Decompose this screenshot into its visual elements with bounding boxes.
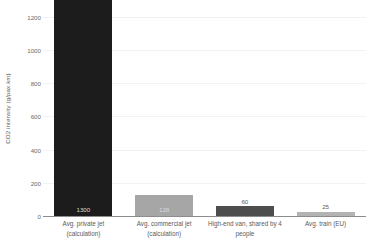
- bar-value-label: 60: [205, 198, 286, 205]
- y-tick-label: 200: [15, 179, 41, 186]
- y-tick-label: 600: [15, 113, 41, 120]
- x-axis-line: [43, 216, 366, 217]
- category-label: Avg. private jet(calculation): [43, 219, 124, 238]
- category-label: Avg. train (EU): [285, 219, 366, 229]
- x-axis-category-labels: Avg. private jet(calculation)Avg. commer…: [43, 219, 366, 249]
- y-axis-tick-labels: 020040060080010001200: [13, 0, 41, 249]
- bar-slot: 1300: [43, 0, 124, 216]
- bar-slot: 128: [124, 0, 205, 216]
- bar-value-label: 1300: [43, 206, 124, 213]
- category-label: High-end van, shared by 4people: [205, 219, 286, 238]
- bar-slot: 60: [205, 0, 286, 216]
- category-label-line: High-end van, shared by 4: [205, 219, 286, 229]
- bar-chart: CO2 intensity (g/pax.km) 020040060080010…: [0, 0, 374, 249]
- y-tick-label: 400: [15, 146, 41, 153]
- category-label-line: people: [205, 229, 286, 239]
- category-label-line: Avg. commercial jet: [124, 219, 205, 229]
- category-label: Avg. commercial jet(calculation): [124, 219, 205, 238]
- plot-area: 13001286025: [43, 0, 366, 216]
- y-axis-title: CO2 intensity (g/pax.km): [0, 0, 14, 216]
- bar[interactable]: [54, 0, 112, 216]
- y-tick-label: 800: [15, 80, 41, 87]
- category-label-line: Avg. private jet: [43, 219, 124, 229]
- category-label-line: (calculation): [43, 229, 124, 239]
- category-label-line: Avg. train (EU): [285, 219, 366, 229]
- category-label-line: (calculation): [124, 229, 205, 239]
- bars: 13001286025: [43, 0, 366, 216]
- y-tick-label: 0: [15, 213, 41, 220]
- bar[interactable]: [216, 206, 274, 216]
- bar-value-label: 25: [285, 203, 366, 210]
- bar-slot: 25: [285, 0, 366, 216]
- y-tick-label: 1200: [15, 13, 41, 20]
- bar-value-label: 128: [124, 206, 205, 213]
- y-axis-title-text: CO2 intensity (g/pax.km): [4, 73, 11, 143]
- y-tick-label: 1000: [15, 46, 41, 53]
